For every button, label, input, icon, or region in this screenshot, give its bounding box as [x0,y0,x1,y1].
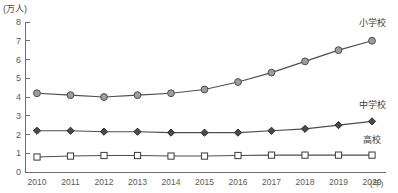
y-tick-label: 0 [16,167,21,177]
x-tick-label: 2013 [128,177,147,187]
x-axis-ticks: 2010201120122013201420152016201720182019… [28,177,382,187]
x-tick-label: 2010 [28,177,47,187]
chart-series-2 [33,118,375,136]
data-point-marker [335,152,341,158]
y-tick-label: 4 [16,92,21,102]
data-point-marker [34,154,40,160]
series-labels-group: 小学校中学校高校 [359,17,386,145]
data-point-marker [335,122,342,129]
data-point-marker [368,118,375,125]
x-tick-label: 2011 [61,177,80,187]
data-point-marker [201,129,208,136]
data-point-marker [134,128,141,135]
data-point-marker [167,129,174,136]
chart-axes [25,22,386,172]
y-tick-label: 6 [16,55,21,65]
data-point-marker [235,79,242,86]
x-tick-label: 2018 [296,177,315,187]
data-point-marker [67,153,73,159]
data-point-marker [234,129,241,136]
x-tick-label: 2015 [195,177,214,187]
data-point-marker [67,92,74,99]
x-tick-label: 2014 [162,177,181,187]
y-axis-ticks: 012345678 [16,17,30,177]
y-axis-unit-label: (万人) [3,4,27,14]
y-tick-label: 5 [16,73,21,83]
series-label-2: 中学校 [359,99,386,110]
data-point-marker [33,127,40,134]
y-tick-label: 7 [16,36,21,46]
chart-series-3 [34,152,375,160]
data-point-marker [301,125,308,132]
data-point-marker [101,152,107,158]
data-point-marker [369,37,376,44]
y-tick-label: 3 [16,111,21,121]
data-point-marker [201,86,208,93]
data-point-marker [335,47,342,54]
data-point-marker [201,153,207,159]
x-tick-label: 2012 [95,177,114,187]
series-label-3: 高校 [363,134,381,145]
y-tick-label: 1 [16,148,21,158]
axis-lines [25,22,386,172]
data-point-marker [268,127,275,134]
x-tick-label: 2016 [229,177,248,187]
data-point-marker [100,128,107,135]
y-tick-label: 8 [16,17,21,27]
data-point-marker [302,58,309,65]
data-point-marker [268,69,275,76]
chart-series-group [33,37,375,160]
data-point-marker [101,94,108,101]
x-axis-unit-label: (年) [370,178,384,188]
data-point-marker [134,92,141,99]
data-point-marker [302,152,308,158]
chart-canvas: 012345678 201020112012201320142015201620… [0,0,398,193]
line-chart-figure: 012345678 201020112012201320142015201620… [0,0,398,193]
data-point-marker [268,152,274,158]
chart-series-1 [34,37,376,100]
data-point-marker [235,152,241,158]
x-tick-label: 2017 [262,177,281,187]
data-point-marker [168,90,175,97]
data-point-marker [168,153,174,159]
data-point-marker [34,90,41,97]
data-point-marker [369,152,375,158]
y-tick-label: 2 [16,130,21,140]
series-label-1: 小学校 [359,17,386,28]
data-point-marker [67,127,74,134]
x-tick-label: 2019 [329,177,348,187]
data-point-marker [134,152,140,158]
